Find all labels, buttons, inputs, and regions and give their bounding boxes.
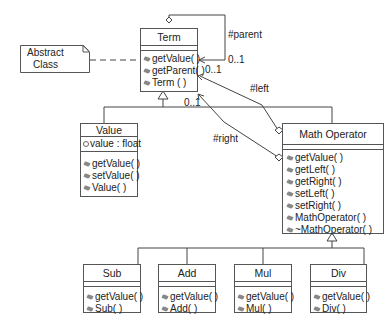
parent-role-label: #parent [228, 29, 262, 40]
operation: ~MathOperator( ) [287, 224, 381, 236]
operation: getValue( ) [87, 291, 138, 303]
right-multiplicity-label: 0..1 [184, 97, 201, 108]
class-add[interactable]: Add getValue( ) Add( ) [158, 264, 216, 313]
operation: Value( ) [84, 182, 135, 194]
operations-compartment: getValue( ) Add( ) [159, 287, 215, 317]
operation-icon [286, 155, 293, 161]
class-mul[interactable]: Mul getValue( ) Mul( ) [234, 264, 292, 313]
operation-icon [237, 306, 244, 312]
operation: Add( ) [162, 303, 213, 315]
abstract-class-note: Abstract Class [20, 45, 90, 73]
operation: getValue( ) [162, 291, 213, 303]
left-role-label: #left [250, 83, 269, 94]
operation-icon [286, 227, 293, 233]
operation: getRight( ) [287, 176, 381, 188]
operation-icon [286, 191, 293, 197]
operation-icon [143, 80, 150, 86]
operation-icon [286, 215, 293, 221]
operations-compartment: getValue( ) getLeft( ) getRight( ) setLe… [283, 150, 383, 238]
operation: Div( ) [314, 303, 364, 315]
operation: getParent( ) [144, 65, 195, 77]
private-attribute-icon [83, 141, 89, 147]
class-math-operator[interactable]: Math Operator getValue( ) getLeft( ) get… [282, 123, 384, 234]
operation: Mul( ) [238, 303, 289, 315]
operation-icon [286, 203, 293, 209]
class-term[interactable]: Term getValue( ) getParent( ) Term ( ) [140, 28, 198, 92]
operation: getLeft( ) [287, 164, 381, 176]
class-name: Term [141, 29, 197, 46]
parent-multiplicity-label: 0..1 [228, 54, 245, 65]
operation-icon [161, 306, 168, 312]
operation: getValue( ) [314, 291, 364, 303]
class-name: Add [159, 265, 215, 282]
operation-icon [286, 179, 293, 185]
operations-compartment: getValue( ) getParent( ) Term ( ) [141, 51, 197, 91]
operation-icon [143, 68, 150, 74]
class-name: Sub [84, 265, 140, 282]
operations-compartment: getValue( ) Div( ) [311, 287, 366, 317]
operation: setLeft( ) [287, 188, 381, 200]
operations-compartment: getValue( ) setValue( ) Value( ) [81, 152, 137, 196]
operation: getValue( ) [144, 53, 195, 65]
class-value[interactable]: Value value : float getValue( ) setValue… [80, 123, 138, 197]
attribute: value : float [83, 138, 135, 150]
operation-icon [83, 173, 90, 179]
note-line-2: Class [27, 59, 64, 71]
class-sub[interactable]: Sub getValue( ) Sub( ) [83, 264, 141, 313]
class-name: Math Operator [283, 124, 383, 145]
left-multiplicity-label: 0..1 [205, 64, 222, 75]
operation: getValue( ) [238, 291, 289, 303]
operation: setRight( ) [287, 200, 381, 212]
operation-icon [86, 306, 93, 312]
operation: getValue( ) [84, 158, 135, 170]
class-name: Div [311, 265, 366, 282]
note-line-1: Abstract [27, 47, 64, 59]
operation-icon [86, 294, 93, 300]
operation-icon [286, 167, 293, 173]
operation-icon [237, 294, 244, 300]
operation-icon [143, 56, 150, 62]
operation-icon [313, 306, 320, 312]
class-name: Value [81, 124, 137, 137]
operation: Sub( ) [87, 303, 138, 315]
operation-icon [83, 185, 90, 191]
operation: setValue( ) [84, 170, 135, 182]
operation: Term ( ) [144, 77, 195, 89]
attributes-compartment: value : float [81, 137, 137, 152]
operations-compartment: getValue( ) Mul( ) [235, 287, 291, 317]
operation: MathOperator( ) [287, 212, 381, 224]
class-name: Mul [235, 265, 291, 282]
operation: getValue( ) [287, 152, 381, 164]
operation-icon [83, 161, 90, 167]
class-div[interactable]: Div getValue( ) Div( ) [310, 264, 367, 313]
operation-icon [313, 294, 320, 300]
operations-compartment: getValue( ) Sub( ) [84, 287, 140, 317]
right-role-label: #right [213, 133, 238, 144]
operation-icon [161, 294, 168, 300]
